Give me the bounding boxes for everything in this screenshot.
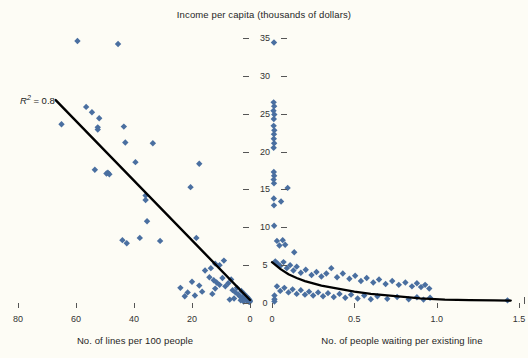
- data-point: [177, 285, 183, 291]
- data-point: [83, 104, 89, 110]
- data-point: [221, 257, 227, 263]
- data-point: [271, 131, 277, 137]
- y-axis-tick-mark-right: [281, 114, 287, 115]
- data-point: [216, 262, 222, 268]
- data-point: [92, 167, 98, 173]
- data-point: [271, 202, 277, 208]
- data-point: [298, 270, 304, 276]
- data-point: [216, 282, 222, 288]
- data-point: [202, 267, 208, 273]
- data-point: [331, 294, 337, 300]
- data-point: [376, 276, 382, 282]
- data-point: [361, 292, 367, 298]
- data-point: [137, 235, 143, 241]
- y-axis-tick-mark-right: [281, 227, 287, 228]
- right-trendline: [272, 262, 511, 300]
- data-point: [271, 195, 277, 201]
- right-x-axis-edge-tick: [524, 297, 525, 304]
- data-point: [193, 235, 199, 241]
- y-axis-tick-label: 30: [252, 71, 278, 81]
- y-axis-tick-label: 15: [252, 184, 278, 194]
- data-point: [144, 218, 150, 224]
- data-point: [132, 159, 138, 165]
- y-axis-tick-label: 5: [252, 260, 278, 270]
- data-point: [196, 160, 202, 166]
- data-point: [313, 269, 319, 275]
- y-axis-tick-label: 25: [252, 109, 278, 119]
- data-point: [342, 295, 348, 301]
- y-axis-tick-label: 0: [252, 298, 278, 308]
- y-axis-tick-mark-left: [243, 38, 249, 39]
- data-point: [124, 240, 130, 246]
- data-point: [418, 284, 424, 290]
- data-point: [374, 293, 380, 299]
- data-point: [106, 171, 112, 177]
- data-point: [340, 270, 346, 276]
- data-point: [96, 115, 102, 121]
- data-point: [242, 293, 248, 299]
- right-x-tick-mark: [437, 303, 438, 308]
- right-x-tick-label: 1.0: [430, 314, 443, 324]
- data-point: [274, 238, 280, 244]
- data-point: [285, 289, 291, 295]
- data-point: [199, 288, 205, 294]
- data-point: [270, 176, 276, 182]
- data-point: [184, 289, 190, 295]
- data-point: [74, 38, 80, 44]
- data-point: [241, 291, 247, 297]
- data-point: [271, 136, 277, 142]
- data-point: [142, 197, 148, 203]
- data-point: [334, 274, 340, 280]
- right-x-tick-label: 1.5: [513, 314, 526, 324]
- r-squared-annotation: R2 = 0.8: [20, 94, 55, 106]
- data-point: [352, 273, 358, 279]
- data-point: [287, 262, 293, 268]
- data-point: [370, 279, 376, 285]
- data-point: [271, 173, 277, 179]
- data-point: [306, 288, 312, 294]
- data-point: [122, 139, 128, 145]
- data-point: [103, 170, 109, 176]
- right-scatter-points: [270, 39, 510, 304]
- data-point: [242, 296, 248, 302]
- data-point: [228, 276, 234, 282]
- data-point: [427, 295, 433, 301]
- data-point: [271, 140, 277, 146]
- data-point: [237, 293, 243, 299]
- data-point: [281, 285, 287, 291]
- data-point: [318, 273, 324, 279]
- left-trendline: [56, 100, 250, 300]
- data-point: [240, 295, 246, 301]
- data-point: [384, 296, 390, 302]
- data-point: [157, 238, 163, 244]
- data-point: [504, 297, 510, 303]
- y-axis-tick-mark-left: [243, 76, 249, 77]
- y-axis-tick-label: 35: [252, 33, 278, 43]
- y-axis-tick-mark-right: [281, 189, 287, 190]
- data-point: [354, 295, 360, 301]
- data-point: [414, 280, 420, 286]
- data-point: [212, 285, 218, 291]
- y-axis-tick-label: 20: [252, 147, 278, 157]
- data-point: [244, 294, 250, 300]
- data-point: [323, 270, 329, 276]
- data-point: [294, 263, 300, 269]
- left-x-tick-label: 80: [13, 314, 23, 324]
- data-point: [212, 260, 218, 266]
- data-point: [394, 294, 400, 300]
- data-point: [278, 198, 284, 204]
- data-point: [308, 272, 314, 278]
- y-axis-tick-mark-left: [243, 152, 249, 153]
- data-point: [234, 285, 240, 291]
- data-point: [382, 281, 388, 287]
- data-point: [189, 279, 195, 285]
- right-x-tick-mark: [519, 303, 520, 308]
- y-axis-tick-mark-left: [243, 189, 249, 190]
- data-point: [206, 274, 212, 280]
- data-point: [209, 291, 215, 297]
- data-point: [325, 290, 331, 296]
- data-point: [229, 287, 235, 293]
- data-point: [235, 291, 241, 297]
- data-point: [227, 296, 233, 302]
- left-x-tick-label: 60: [71, 314, 81, 324]
